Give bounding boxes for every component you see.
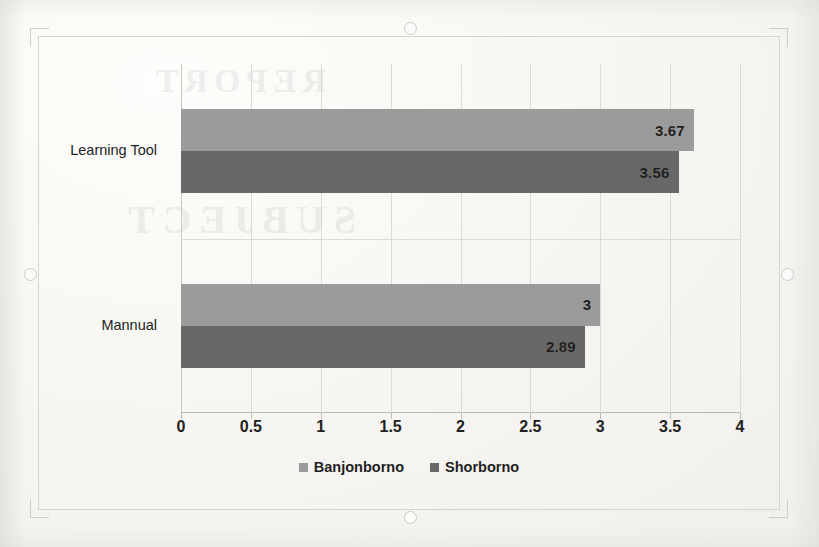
legend-swatch-icon bbox=[299, 463, 308, 472]
gridline-vertical bbox=[740, 64, 741, 413]
bar-1[interactable]: 3.56 bbox=[181, 151, 679, 193]
category-axis: Learning ToolMannual bbox=[44, 64, 175, 413]
bar-value-label: 2.89 bbox=[546, 339, 576, 354]
category-label: Mannual bbox=[101, 318, 157, 333]
bar-0[interactable]: 3.67 bbox=[181, 109, 694, 151]
legend-item[interactable]: Banjonborno bbox=[299, 460, 404, 475]
x-tick-label: 2.5 bbox=[519, 419, 541, 435]
bar-chart[interactable]: Learning ToolMannual 3.673.5632.89 00.51… bbox=[44, 42, 774, 504]
legend-swatch-icon bbox=[430, 463, 439, 472]
x-tick-label: 3 bbox=[596, 419, 605, 435]
x-tick-label: 0.5 bbox=[240, 419, 262, 435]
bar-value-label: 3 bbox=[583, 297, 592, 312]
legend-label: Banjonborno bbox=[314, 460, 404, 475]
legend-item[interactable]: Shorborno bbox=[430, 460, 519, 475]
bar-value-label: 3.56 bbox=[640, 165, 670, 180]
x-axis-tick-labels: 00.511.522.533.54 bbox=[181, 419, 740, 445]
bar-0[interactable]: 3 bbox=[181, 284, 600, 326]
gridline-horizontal bbox=[181, 239, 740, 240]
category-label: Learning Tool bbox=[70, 143, 157, 158]
x-tick-label: 4 bbox=[736, 419, 745, 435]
x-tick-label: 1 bbox=[316, 419, 325, 435]
x-tick-label: 2 bbox=[456, 419, 465, 435]
x-tick-label: 0 bbox=[177, 419, 186, 435]
bar-value-label: 3.67 bbox=[655, 123, 685, 138]
x-tick-label: 3.5 bbox=[659, 419, 681, 435]
plot-area: 3.673.5632.89 bbox=[181, 64, 740, 413]
bar-1[interactable]: 2.89 bbox=[181, 326, 585, 368]
chart-legend: BanjonbornoShorborno bbox=[44, 460, 774, 475]
legend-label: Shorborno bbox=[445, 460, 519, 475]
x-tick-label: 1.5 bbox=[380, 419, 402, 435]
